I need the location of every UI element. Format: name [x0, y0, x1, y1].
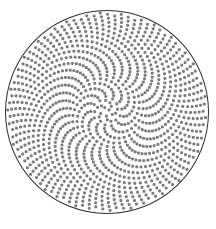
- phyllotaxis-plot-canvas: [0, 0, 216, 229]
- phyllotaxis-figure: Phyllotaxis spiral dot pattern Circular …: [0, 0, 216, 229]
